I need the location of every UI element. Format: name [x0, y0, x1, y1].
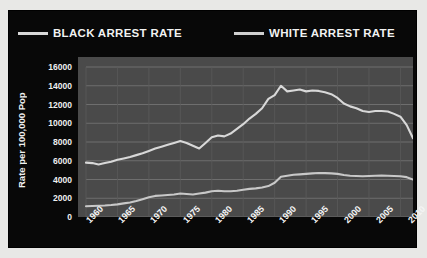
series-line-white-arrest-rate — [86, 173, 413, 206]
y-tick-label: 10000 — [48, 118, 72, 128]
plot-area — [78, 57, 413, 217]
legend-label-white: WHITE ARREST RATE — [269, 27, 395, 39]
y-tick-label: 14000 — [48, 81, 72, 91]
y-tick-label: 2000 — [53, 193, 72, 203]
y-tick-label: 12000 — [48, 100, 72, 110]
y-tick-label: 16000 — [48, 62, 72, 72]
white-series-swatch-icon — [234, 32, 264, 35]
y-tick-label: 4000 — [53, 175, 72, 185]
plot-svg — [78, 57, 413, 217]
y-tick-label: 8000 — [53, 137, 72, 147]
y-tick-label: 0 — [67, 212, 72, 222]
black-series-swatch-icon — [18, 32, 48, 35]
x-axis-tick-labels: 1960196519701975198019851990199520002005… — [78, 218, 424, 258]
chart-legend: BLACK ARREST RATE WHITE ARREST RATE — [18, 22, 398, 44]
gridlines — [86, 67, 413, 217]
legend-item-white-arrest-rate: WHITE ARREST RATE — [234, 27, 395, 39]
legend-item-black-arrest-rate: BLACK ARREST RATE — [18, 27, 182, 39]
chart-panel: BLACK ARREST RATE WHITE ARREST RATE Rate… — [8, 10, 417, 248]
series-line-black-arrest-rate — [86, 86, 413, 165]
chart-image: BLACK ARREST RATE WHITE ARREST RATE Rate… — [0, 0, 427, 258]
y-axis-tick-labels: 1600014000120001000080006000400020000 — [30, 57, 74, 227]
legend-label-black: BLACK ARREST RATE — [53, 27, 182, 39]
y-tick-label: 6000 — [53, 156, 72, 166]
y-axis-title: Rate per 100,000 Pop — [14, 80, 28, 200]
